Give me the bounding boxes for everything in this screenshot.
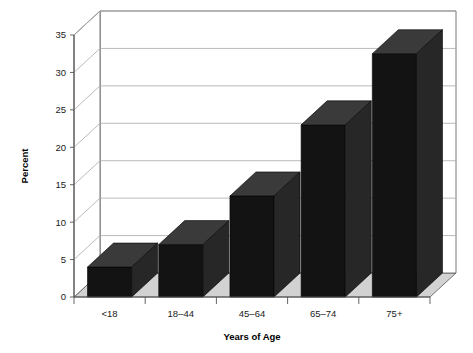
x-tick-label: <18 xyxy=(102,308,118,319)
left-wall-surface xyxy=(74,11,100,297)
y-tick-label: 5 xyxy=(61,254,66,265)
bar-chart: 05101520253035<1818–4445–6465–7475+Years… xyxy=(0,0,473,353)
bar-front-face xyxy=(372,54,416,297)
x-tick-label: 18–44 xyxy=(168,308,194,319)
y-tick-label: 25 xyxy=(55,104,66,115)
bar-3 xyxy=(301,101,371,297)
x-axis: <1818–4445–6465–7475+ xyxy=(74,297,430,319)
bar-side-face xyxy=(345,101,371,297)
chart-left-wall xyxy=(74,11,100,297)
bar-front-face xyxy=(230,196,274,297)
bar-front-face xyxy=(88,267,132,297)
y-tick-label: 10 xyxy=(55,217,66,228)
y-axis-title: Percent xyxy=(19,148,30,184)
chart-canvas: 05101520253035<1818–4445–6465–7475+Years… xyxy=(0,0,473,353)
y-tick-label: 15 xyxy=(55,179,66,190)
y-tick-label: 35 xyxy=(55,29,66,40)
y-tick-label: 0 xyxy=(61,291,66,302)
bar-2 xyxy=(230,172,300,297)
y-tick-label: 30 xyxy=(55,67,66,78)
bar-4 xyxy=(372,30,442,297)
bar-front-face xyxy=(159,245,203,297)
x-tick-label: 75+ xyxy=(386,308,403,319)
y-tick-label: 20 xyxy=(55,142,66,153)
x-axis-title: Years of Age xyxy=(223,331,280,342)
bar-side-face xyxy=(416,30,442,297)
bar-front-face xyxy=(301,125,345,297)
x-tick-label: 45–64 xyxy=(239,308,265,319)
x-tick-label: 65–74 xyxy=(310,308,336,319)
